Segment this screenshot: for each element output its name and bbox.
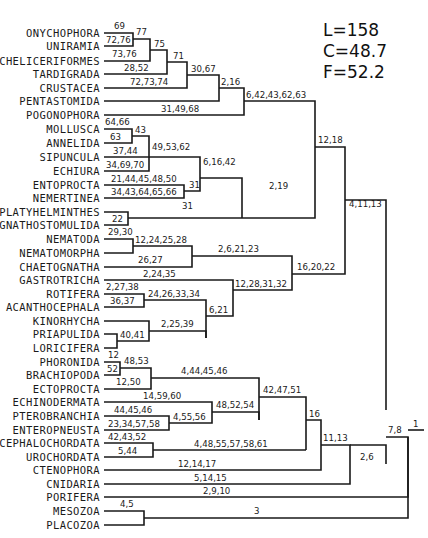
branch-label: 14,59,60 [143,391,181,401]
branch-label: 22 [112,214,123,224]
taxon-label: CNIDARIA [46,478,100,490]
branch-label: 6,21 [209,305,228,315]
branch-label: 3 [254,506,259,516]
tree-branch [315,147,345,245]
taxon-label: PHORONIDA [40,356,101,368]
branch-label: 69 [114,21,125,31]
tree-branch [104,511,144,525]
taxon-label: KINORHYCHA [33,315,100,327]
branch-label: 11,13 [323,433,348,443]
taxon-label: PLATYHELMINTHES [0,206,100,218]
branch-label: 5,44 [118,446,137,456]
branch-label: 4,48,55,57,58,61 [194,439,268,449]
branch-label: 52 [107,364,118,374]
tree-branch [104,239,133,253]
tree-length-stat: L=158 [323,20,379,40]
branch-label: 6,42,43,62,63 [246,90,306,100]
branch-label: 49,53,62 [152,142,190,152]
taxon-label: UNIRAMIA [46,40,100,52]
branch-label: 28,52 [124,63,149,73]
taxon-label: MOLLUSCA [46,123,100,135]
branch-label: 12,14,17 [178,459,216,469]
phylogenetic-tree: L=158 C=48.7 F=52.2 ONYCHOPHORAUNIRAMIAC… [0,0,428,538]
taxon-label: GASTROTRICHA [19,274,100,286]
taxon-label: BRACHIOPODA [26,369,100,381]
tree-statistics: L=158 C=48.7 F=52.2 [323,20,387,82]
branch-label: 16 [309,409,320,419]
taxon-label: ONYCHOPHORA [26,27,100,39]
tree-branch [149,331,206,338]
taxon-label: NEMATODA [46,233,100,245]
taxon-label: NEMERTINEA [33,192,100,204]
branch-label: 37,44 [113,146,138,156]
taxon-label: PENTASTOMIDA [19,95,100,107]
taxon-label: ECTOPROCTA [33,383,100,395]
taxon-label: CEPHALOCHORDATA [0,437,100,449]
branch-label: 5,14,15 [194,473,227,483]
branch-label: 26,27 [138,255,163,265]
branch-label: 2,16 [221,77,240,87]
branch-label: 16,20,22 [297,262,335,272]
branch-label: 75 [154,39,165,49]
taxon-label: ROTIFERA [46,288,100,300]
tree-branch [104,334,117,348]
branch-label: 72,76 [106,35,131,45]
branch-label: 48,53 [124,356,149,366]
taxon-label: UROCHORDATA [26,451,100,463]
branch-label: 21,44,45,48,50 [111,174,177,184]
branch-label: 4,44,45,46 [181,366,227,376]
tree-branch [192,256,292,274]
branch-label: 2,6 [360,452,374,462]
f-ratio-stat: F=52.2 [323,62,385,82]
branch-label: 12,28,31,32 [235,279,287,289]
branch-label: 1 [413,419,418,429]
branch-label: 24,26,33,34 [148,289,200,299]
branch-character-labels: 6972,767773,767528,527172,73,7430,672,16… [105,21,418,516]
branch-label: 34,69,70 [106,160,144,170]
taxon-label: ANNELIDA [46,137,100,149]
taxon-label: ECHIURA [53,165,100,177]
branch-label: 36,37 [110,296,135,306]
taxon-label: PLACOZOA [46,519,100,531]
branch-label: 12,24,25,28 [135,235,187,245]
branch-label: 6,16,42 [203,157,236,167]
tree-branch [244,101,315,178]
tree-branch [200,178,242,218]
tree-branch [104,445,350,484]
branch-label: 48,52,54 [216,400,254,410]
taxon-label: NEMATOMORPHA [19,247,100,259]
branch-label: 72,73,74 [130,77,168,87]
consistency-index-stat: C=48.7 [323,41,387,61]
branch-label: 2,9,10 [203,486,230,496]
branch-label: 43 [135,125,146,135]
branch-label: 73,76 [112,49,137,59]
taxon-label: SIPUNCULA [40,151,101,163]
branch-label: 2,27,38 [106,282,139,292]
branch-label: 4,55,56 [173,412,206,422]
branch-label: 7,8 [388,425,402,435]
taxon-label: CTENOPHORA [33,464,100,476]
taxon-label: ENTEROPNEUSTA [13,424,101,436]
branch-label: 4,11,13 [349,199,382,209]
branch-label: 31 [189,180,200,190]
branch-label: 64,66 [105,117,130,127]
taxon-label: CHELICERIFORMES [0,55,100,67]
taxon-label: GNATHOSTOMULIDA [0,219,100,231]
branch-label: 71 [173,51,184,61]
branch-label: 12 [108,350,119,360]
taxon-label: MESOZOA [53,505,100,517]
branch-label: 34,43,64,65,66 [111,187,177,197]
taxon-labels: ONYCHOPHORAUNIRAMIACHELICERIFORMESTARDIG… [0,27,100,531]
tree-branch [212,412,259,420]
tree-branch [345,200,386,410]
taxon-label: CRUSTACEA [40,82,101,94]
branch-label: 2,6,21,23 [218,244,259,254]
taxon-label: POGONOPHORA [26,109,100,121]
branch-label: 4,5 [120,499,134,509]
branch-label: 12,50 [116,377,141,387]
branch-label: 42,47,51 [263,385,301,395]
taxon-label: ACANTHOCEPHALA [6,301,100,313]
taxon-label: ENTOPROCTA [33,179,100,191]
branch-label: 12,18 [318,135,343,145]
branch-label: 30,67 [191,64,216,74]
